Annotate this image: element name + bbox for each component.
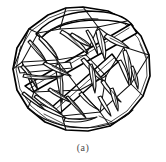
sphere-diagram bbox=[0, 0, 166, 140]
figure-caption: (a) bbox=[0, 140, 166, 156]
figure-container: (a) bbox=[0, 0, 166, 162]
